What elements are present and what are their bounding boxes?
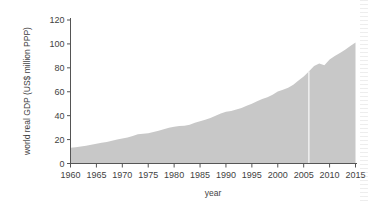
scan-edge-noise — [360, 0, 368, 203]
y-axis-tick-label: 60 — [54, 87, 64, 97]
y-axis-tick-label: 120 — [49, 15, 64, 25]
x-axis-tick-label: 1985 — [190, 170, 210, 180]
y-axis-tick-label: 40 — [54, 111, 64, 121]
x-axis-tick-label: 1960 — [60, 170, 80, 180]
x-axis-tick-label: 1980 — [164, 170, 184, 180]
y-axis-tick-label: 20 — [54, 135, 64, 145]
x-axis-tick-label: 2010 — [320, 170, 340, 180]
x-axis-tick-label: 2005 — [294, 170, 314, 180]
x-axis-tick-label: 2000 — [268, 170, 288, 180]
scan-artifact-line — [308, 71, 309, 163]
y-axis-title: world real GDP (US$ million PPP) — [22, 27, 32, 156]
chart-figure: 020406080100120 196019651970197519801985… — [0, 0, 368, 203]
x-axis-tick-label: 1975 — [138, 170, 158, 180]
world-gdp-area-chart: 020406080100120 196019651970197519801985… — [0, 0, 368, 203]
x-axis-tick-label: 1965 — [86, 170, 106, 180]
x-axis-tick-label: 1970 — [112, 170, 132, 180]
x-axis-tick-label: 1990 — [216, 170, 236, 180]
x-axis-title: year — [205, 188, 222, 198]
y-axis-tick-label: 100 — [49, 39, 64, 49]
x-axis-tick-label: 1995 — [242, 170, 262, 180]
y-axis-tick-label: 0 — [59, 159, 64, 169]
y-axis-tick-label: 80 — [54, 63, 64, 73]
